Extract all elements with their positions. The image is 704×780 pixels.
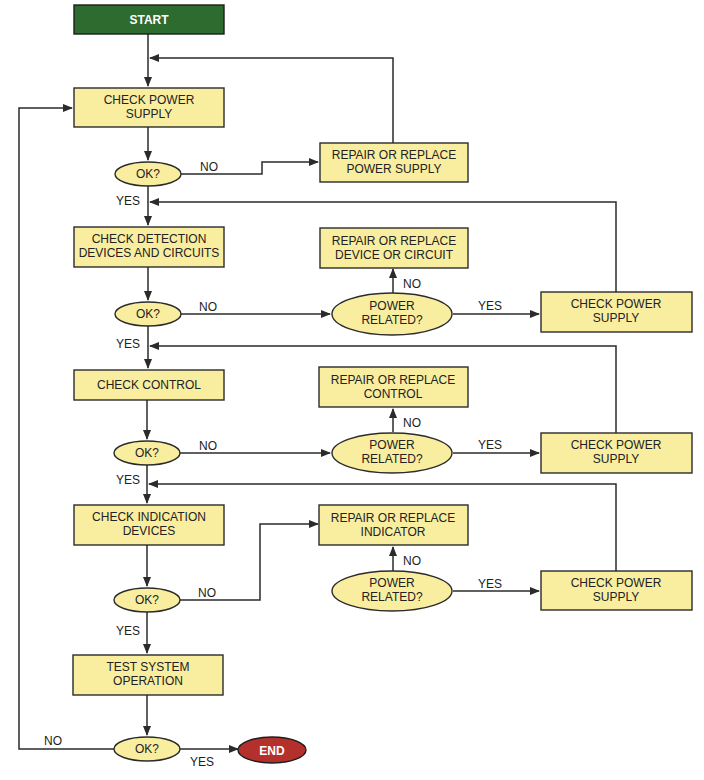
decision-ok-4: OK? bbox=[114, 588, 180, 612]
svg-text:CHECK POWER: CHECK POWER bbox=[571, 576, 662, 590]
svg-text:OK?: OK? bbox=[136, 167, 160, 181]
svg-text:DEVICES: DEVICES bbox=[123, 524, 176, 538]
step-check-detection: CHECK DETECTION DEVICES AND CIRCUITS bbox=[74, 227, 224, 267]
svg-text:REPAIR OR REPLACE: REPAIR OR REPLACE bbox=[332, 234, 456, 248]
svg-text:SUPPLY: SUPPLY bbox=[126, 107, 172, 121]
label-no: NO bbox=[199, 439, 217, 453]
label-yes: YES bbox=[478, 577, 502, 591]
svg-text:CHECK DETECTION: CHECK DETECTION bbox=[92, 232, 207, 246]
step-check-control: CHECK CONTROL bbox=[74, 370, 224, 400]
label-yes: YES bbox=[478, 299, 502, 313]
decision-power-related-1: POWER RELATED? bbox=[332, 293, 452, 335]
svg-text:POWER: POWER bbox=[369, 438, 415, 452]
flowchart: START CHECK POWER SUPPLY OK? CHECK DETEC… bbox=[0, 0, 704, 780]
svg-text:SUPPLY: SUPPLY bbox=[593, 311, 639, 325]
svg-text:SUPPLY: SUPPLY bbox=[593, 452, 639, 466]
label-no: NO bbox=[403, 277, 421, 291]
svg-text:CHECK CONTROL: CHECK CONTROL bbox=[97, 378, 201, 392]
repair-indicator: REPAIR OR REPLACE INDICATOR bbox=[319, 505, 468, 545]
svg-text:RELATED?: RELATED? bbox=[361, 590, 422, 604]
end-label: END bbox=[259, 744, 285, 758]
label-no: NO bbox=[403, 416, 421, 430]
svg-text:POWER: POWER bbox=[369, 299, 415, 313]
decision-ok-2: OK? bbox=[115, 302, 181, 326]
label-no: NO bbox=[198, 586, 216, 600]
svg-text:CONTROL: CONTROL bbox=[364, 387, 423, 401]
label-yes: YES bbox=[478, 438, 502, 452]
label-yes: YES bbox=[190, 755, 214, 769]
repair-device-circuit: REPAIR OR REPLACE DEVICE OR CIRCUIT bbox=[320, 228, 468, 268]
repair-control: REPAIR OR REPLACE CONTROL bbox=[319, 367, 468, 407]
label-no: NO bbox=[200, 160, 218, 174]
svg-text:POWER SUPPLY: POWER SUPPLY bbox=[346, 162, 441, 176]
svg-text:OK?: OK? bbox=[135, 593, 159, 607]
start-label: START bbox=[129, 13, 169, 27]
svg-text:DEVICE OR CIRCUIT: DEVICE OR CIRCUIT bbox=[335, 248, 454, 262]
step-check-indication: CHECK INDICATION DEVICES bbox=[74, 505, 224, 545]
svg-text:CHECK POWER: CHECK POWER bbox=[104, 93, 195, 107]
svg-text:SUPPLY: SUPPLY bbox=[593, 590, 639, 604]
side-check-power-supply-3: CHECK POWER SUPPLY bbox=[541, 571, 692, 610]
step-check-power-supply: CHECK POWER SUPPLY bbox=[74, 88, 224, 127]
label-yes: YES bbox=[116, 337, 140, 351]
label-yes: YES bbox=[116, 194, 140, 208]
svg-text:DEVICES AND CIRCUITS: DEVICES AND CIRCUITS bbox=[79, 246, 220, 260]
svg-text:INDICATOR: INDICATOR bbox=[361, 525, 426, 539]
svg-text:CHECK POWER: CHECK POWER bbox=[571, 297, 662, 311]
svg-text:OK?: OK? bbox=[136, 307, 160, 321]
label-no: NO bbox=[403, 554, 421, 568]
side-check-power-supply-2: CHECK POWER SUPPLY bbox=[541, 433, 692, 473]
svg-text:OK?: OK? bbox=[135, 742, 159, 756]
svg-text:OK?: OK? bbox=[135, 446, 159, 460]
svg-text:RELATED?: RELATED? bbox=[361, 313, 422, 327]
svg-text:OPERATION: OPERATION bbox=[113, 674, 183, 688]
label-no: NO bbox=[44, 734, 62, 748]
svg-text:TEST SYSTEM: TEST SYSTEM bbox=[106, 660, 189, 674]
label-no: NO bbox=[199, 300, 217, 314]
label-yes: YES bbox=[116, 624, 140, 638]
step-test-system: TEST SYSTEM OPERATION bbox=[73, 655, 223, 695]
start-terminal: START bbox=[74, 5, 224, 34]
decision-ok-1: OK? bbox=[115, 162, 181, 186]
decision-ok-5: OK? bbox=[114, 737, 180, 761]
label-yes: YES bbox=[116, 473, 140, 487]
svg-text:REPAIR OR REPLACE: REPAIR OR REPLACE bbox=[331, 511, 455, 525]
end-terminal: END bbox=[238, 737, 306, 763]
decision-ok-3: OK? bbox=[114, 441, 180, 465]
svg-text:CHECK INDICATION: CHECK INDICATION bbox=[92, 510, 206, 524]
side-check-power-supply-1: CHECK POWER SUPPLY bbox=[541, 292, 692, 332]
svg-text:REPAIR OR REPLACE: REPAIR OR REPLACE bbox=[331, 373, 455, 387]
decision-power-related-2: POWER RELATED? bbox=[332, 433, 452, 473]
svg-text:REPAIR OR REPLACE: REPAIR OR REPLACE bbox=[332, 148, 456, 162]
repair-power-supply: REPAIR OR REPLACE POWER SUPPLY bbox=[320, 143, 468, 182]
svg-text:CHECK POWER: CHECK POWER bbox=[571, 438, 662, 452]
svg-text:POWER: POWER bbox=[369, 576, 415, 590]
svg-text:RELATED?: RELATED? bbox=[361, 452, 422, 466]
decision-power-related-3: POWER RELATED? bbox=[332, 571, 452, 611]
